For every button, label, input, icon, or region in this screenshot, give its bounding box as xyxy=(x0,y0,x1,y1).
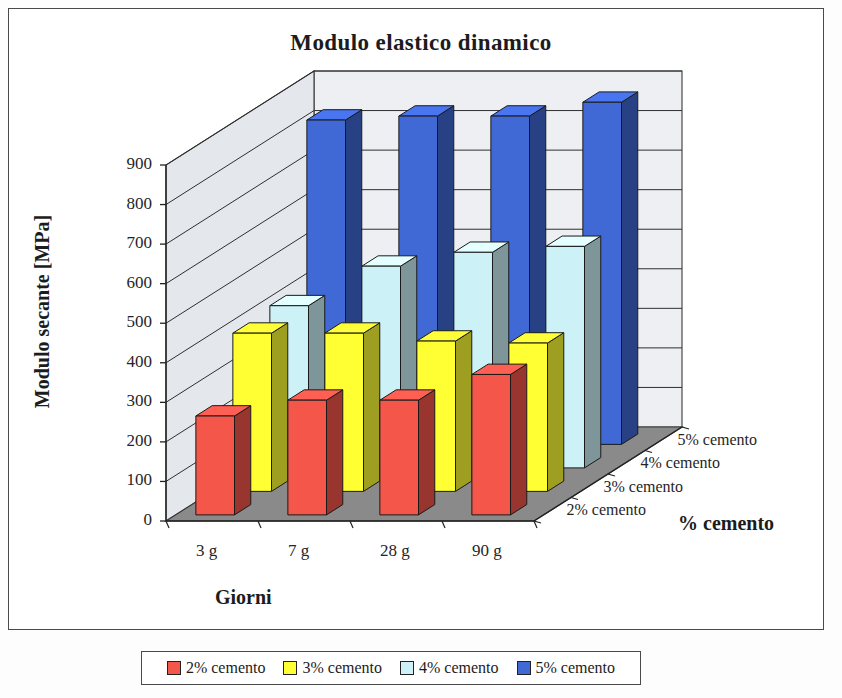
legend-item: 5% cemento xyxy=(517,659,616,677)
legend-item: 2% cemento xyxy=(167,659,266,677)
legend-swatch-4pct xyxy=(400,661,414,675)
depth-category-label: 4% cemento xyxy=(641,454,721,472)
x-axis-title: Giorni xyxy=(215,586,272,609)
depth-category-label: 5% cemento xyxy=(678,431,758,449)
legend-item: 3% cemento xyxy=(283,659,382,677)
y-tick-label: 800 xyxy=(98,194,152,214)
depth-axis-title: % cemento xyxy=(678,512,774,535)
depth-category-label: 3% cemento xyxy=(604,478,684,496)
y-tick-label: 600 xyxy=(98,273,152,293)
y-tick-label: 400 xyxy=(98,352,152,372)
legend-label: 2% cemento xyxy=(186,659,266,677)
legend-swatch-2pct xyxy=(167,661,181,675)
chart-title: Modulo elastico dinamico xyxy=(0,30,842,56)
legend-label: 4% cemento xyxy=(419,659,499,677)
y-tick-label: 900 xyxy=(98,154,152,174)
y-tick-label: 100 xyxy=(98,470,152,490)
y-tick-label: 700 xyxy=(98,233,152,253)
x-category-label: 7 g xyxy=(288,541,309,561)
y-tick-label: 500 xyxy=(98,312,152,332)
x-category-label: 28 g xyxy=(380,541,410,561)
legend-item: 4% cemento xyxy=(400,659,499,677)
chart-page: Modulo elastico dinamico 010020030040050… xyxy=(0,0,842,698)
chart-legend: 2% cemento 3% cemento 4% cemento 5% ceme… xyxy=(141,651,641,685)
x-category-label: 3 g xyxy=(196,541,217,561)
y-tick-label: 200 xyxy=(98,431,152,451)
legend-swatch-3pct xyxy=(283,661,297,675)
legend-label: 3% cemento xyxy=(302,659,382,677)
y-tick-label: 300 xyxy=(98,391,152,411)
y-tick-label: 0 xyxy=(98,510,152,530)
legend-swatch-5pct xyxy=(517,661,531,675)
x-category-label: 90 g xyxy=(472,541,502,561)
legend-label: 5% cemento xyxy=(536,659,616,677)
y-axis-title: Modulo secante [MPa] xyxy=(31,182,54,442)
depth-category-label: 2% cemento xyxy=(567,501,647,519)
